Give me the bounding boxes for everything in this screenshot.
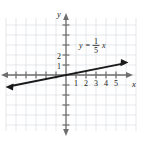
x-tick-label-2: 2: [84, 79, 88, 88]
y-axis-label: y: [56, 9, 61, 19]
y-tick-label-1: 1: [57, 62, 61, 71]
x-tick-label-5: 5: [114, 79, 118, 88]
coordinate-plane-svg: y x 1 2 3 4 5 1 2 y = 1 5 x: [0, 0, 143, 141]
x-axis-arrow-right: [126, 72, 133, 78]
y-tick-label-2: 2: [57, 52, 61, 61]
y-axis-arrow-bottom: [63, 129, 69, 136]
y-axis-arrow-top: [63, 13, 69, 20]
line-arrow-left: [6, 83, 14, 90]
equation-label: y = 1 5 x: [78, 37, 106, 55]
x-tick-label-4: 4: [104, 79, 108, 88]
x-tick-label-3: 3: [94, 79, 98, 88]
equation-variable: x: [101, 41, 106, 50]
equation-lhs: y: [78, 41, 83, 50]
equation-denominator: 5: [94, 46, 98, 55]
equation-equals: =: [86, 41, 91, 50]
graph-figure: y x 1 2 3 4 5 1 2 y = 1 5 x: [0, 0, 143, 141]
x-axis-arrow-left: [1, 72, 8, 78]
x-tick-label-1: 1: [74, 79, 78, 88]
x-axis-label: x: [131, 79, 136, 89]
